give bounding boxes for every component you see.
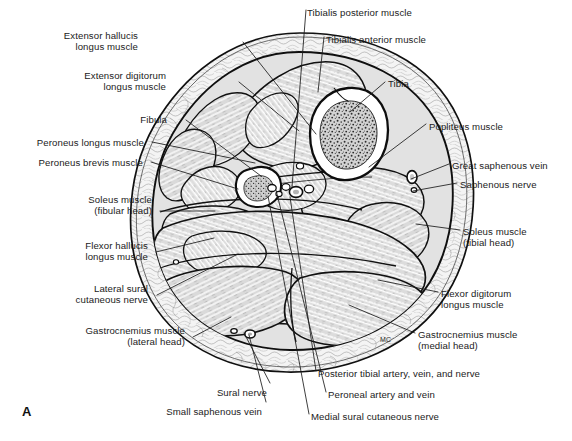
label-line: Peroneus brevis muscle [0,157,143,168]
label-line: longus muscle [0,41,138,52]
label-line: (tibial head) [463,237,527,248]
label-extensor-digitorum-longus-muscle: Extensor digitorumlongus muscle [0,70,166,93]
label-soleus-muscle-fibular-head: Soleus muscle(fibular head) [0,194,152,217]
label-line: Gastrocnemius muscle [418,329,518,340]
label-line: Small saphenous vein [0,406,262,417]
artist-signature: MC [380,336,391,343]
label-line: Extensor hallucis [0,30,138,41]
label-line: Tibia [388,78,409,89]
label-line: Fibula [0,114,167,125]
label-line: Soleus muscle [463,226,527,237]
label-line: Sural nerve [0,387,267,398]
anatomical-figure: Extensor hallucislongus muscleExtensor d… [0,0,572,441]
label-saphenous-nerve: Saphenous nerve [460,179,537,190]
label-tibia: Tibia [388,78,409,89]
label-soleus-muscle-tibial-head: Soleus muscle(tibial head) [463,226,527,249]
label-flexor-hallucis-longus-muscle: Flexor hallucislongus muscle [0,240,148,263]
label-popliteus-muscle: Popliteus muscle [429,121,503,132]
label-line: Extensor digitorum [0,70,166,81]
label-line: longus muscle [0,81,166,92]
label-line: Medial sural cutaneous nerve [311,411,439,422]
label-peroneal-artery-and-vein: Peroneal artery and vein [328,389,435,400]
leg-cross-section-illustration [0,0,572,441]
label-extensor-hallucis-longus-muscle: Extensor hallucislongus muscle [0,30,138,53]
label-line: longus muscle [0,251,148,262]
label-line: Tibialis posterior muscle [307,7,412,18]
label-line: Popliteus muscle [429,121,503,132]
label-posterior-tibial-artery-vein-and-nerve: Posterior tibial artery, vein, and nerve [318,368,480,379]
label-small-saphenous-vein: Small saphenous vein [0,406,262,417]
label-line: Tibialis anterior muscle [326,34,426,45]
panel-letter: A [22,404,31,419]
label-peroneus-brevis-muscle: Peroneus brevis muscle [0,157,143,168]
label-line: (lateral head) [0,336,185,347]
label-fibula: Fibula [0,114,167,125]
anterior-tibial-bundle [296,163,303,169]
saphenous-nerve-structure [411,188,417,193]
sural-nerve-structure [231,329,237,334]
label-line: Peroneus longus muscle [0,137,144,148]
label-medial-sural-cutaneous-nerve: Medial sural cutaneous nerve [311,411,439,422]
tibia-bone [310,88,388,180]
label-line: Lateral sural [0,283,148,294]
label-gastrocnemius-muscle-lateral-head: Gastrocnemius muscle(lateral head) [0,325,185,348]
label-line: Flexor digitorum [441,288,511,299]
label-gastrocnemius-muscle-medial-head: Gastrocnemius muscle(medial head) [418,329,518,352]
label-peroneus-longus-muscle: Peroneus longus muscle [0,137,144,148]
label-line: Saphenous nerve [460,179,537,190]
label-line: Great saphenous vein [452,160,548,171]
label-line: Gastrocnemius muscle [0,325,185,336]
label-line: longus muscle [441,299,511,310]
label-line: cutaneous nerve [0,294,148,305]
label-line: Peroneal artery and vein [328,389,435,400]
label-line: Posterior tibial artery, vein, and nerve [318,368,480,379]
label-flexor-digitorum-longus-muscle: Flexor digitorumlongus muscle [441,288,511,311]
label-line: Soleus muscle [0,194,152,205]
label-sural-nerve: Sural nerve [0,387,267,398]
label-great-saphenous-vein: Great saphenous vein [452,160,548,171]
lateral-sural-cutaneous-nerve-structure [173,260,178,264]
label-tibialis-posterior-muscle: Tibialis posterior muscle [307,7,412,18]
label-line: Flexor hallucis [0,240,148,251]
label-tibialis-anterior-muscle: Tibialis anterior muscle [326,34,426,45]
label-line: (fibular head) [0,205,152,216]
label-lateral-sural-cutaneous-nerve: Lateral suralcutaneous nerve [0,283,148,306]
label-line: (medial head) [418,340,518,351]
